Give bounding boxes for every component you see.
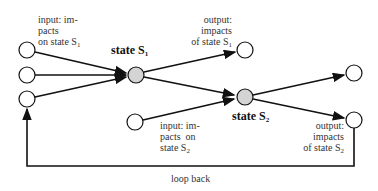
input-s1-label: input: im- pacts on state S1 bbox=[38, 14, 80, 47]
output-s1-node bbox=[237, 42, 253, 58]
output-s2-sub: 2 bbox=[341, 147, 345, 155]
state-s1-sub: 1 bbox=[145, 50, 149, 58]
state-s1-label: state S1 bbox=[111, 43, 148, 58]
output-s1-sub: 1 bbox=[229, 41, 233, 49]
input-s1-sub: 1 bbox=[77, 41, 81, 49]
edge-in-s2 bbox=[143, 99, 234, 120]
output-s1-line2: impacts bbox=[168, 25, 232, 36]
output-s2-line2: impacts bbox=[280, 131, 344, 142]
output-s2-label: output: impacts of state S2 bbox=[280, 120, 344, 153]
output-s2-line3: of state S bbox=[303, 142, 340, 153]
edge-s2-out bbox=[253, 75, 344, 95]
state-s2-text: state S bbox=[232, 109, 266, 123]
input-node-3 bbox=[19, 91, 35, 107]
input-s2-line3: state S bbox=[160, 142, 186, 153]
output-s1-line1: output: bbox=[168, 14, 232, 25]
state-s2-node bbox=[237, 89, 253, 105]
output-s1-line3: of state S bbox=[191, 36, 228, 47]
input-node-2 bbox=[19, 67, 35, 83]
state-s1-text: state S bbox=[111, 43, 145, 57]
input-s2-line1: input: im- bbox=[160, 120, 200, 131]
input-s1-line1: input: im- bbox=[38, 14, 80, 25]
output-s1-label: output: impacts of state S1 bbox=[168, 14, 232, 47]
input-s1-line2: pacts bbox=[38, 25, 80, 36]
input-s2-label: input: im- pacts on state S2 bbox=[160, 120, 200, 153]
input-s2-line2: pacts on bbox=[160, 131, 200, 142]
input-s2-node bbox=[127, 114, 143, 130]
input-s1-line3: on state S bbox=[38, 36, 77, 47]
input-s2-sub: 2 bbox=[186, 147, 190, 155]
state-s2-sub: 2 bbox=[266, 116, 270, 124]
edge-s1-out1 bbox=[144, 52, 235, 72]
output-s2-line1: output: bbox=[280, 120, 344, 131]
loop-back-label: loop back bbox=[171, 173, 210, 184]
edge-in3-s1 bbox=[35, 77, 126, 97]
output-node-top-right bbox=[346, 65, 362, 81]
output-s2-node bbox=[346, 112, 362, 128]
input-node-1 bbox=[19, 42, 35, 58]
state-s1-node bbox=[128, 67, 144, 83]
edge-s1-s2 bbox=[144, 77, 234, 95]
state-s2-label: state S2 bbox=[232, 109, 269, 124]
